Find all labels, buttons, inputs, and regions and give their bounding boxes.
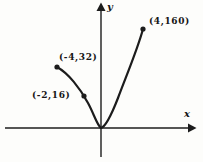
x-axis-arrowhead-icon <box>188 124 197 133</box>
function-graph-figure: (-4,32) (-2,16) (4,160) y x <box>0 0 203 162</box>
point-dot-neg2-16 <box>81 93 86 98</box>
y-axis-arrowhead-icon <box>97 3 106 12</box>
y-axis-label: y <box>107 2 113 12</box>
point-label-4-160: (4,160) <box>149 17 190 26</box>
point-label-neg4-32: (-4,32) <box>59 53 97 62</box>
x-axis-label: x <box>184 109 190 119</box>
point-dot-neg4-32 <box>54 64 59 69</box>
curve-path <box>57 29 143 128</box>
point-dot-4-160 <box>140 26 145 31</box>
point-label-neg2-16: (-2,16) <box>32 91 70 100</box>
